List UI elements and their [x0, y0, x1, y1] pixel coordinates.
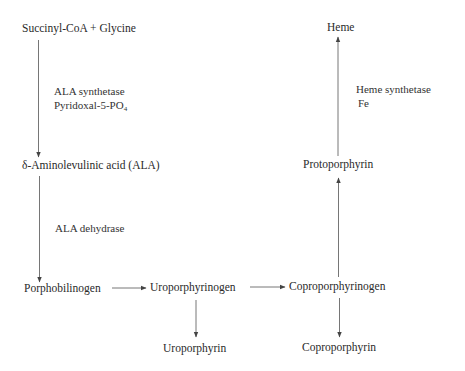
enzyme-ala-synthetase: ALA synthetase: [54, 84, 125, 98]
pathway-arrows: [0, 0, 465, 371]
cofactor-iron: Fe: [358, 96, 369, 110]
cofactor-pyridoxal-phosphate: Pyridoxal-5-PO4: [54, 98, 127, 116]
cofactor-pyridoxal-subscript: 4: [124, 105, 128, 113]
node-ala: δ-Aminolevulinic acid (ALA): [22, 159, 160, 172]
node-protoporphyrin: Protoporphyrin: [303, 158, 373, 171]
node-heme: Heme: [327, 21, 354, 34]
node-coproporphyrin: Coproporphyrin: [302, 341, 376, 354]
node-porphobilinogen: Porphobilinogen: [24, 282, 101, 295]
enzyme-ala-dehydrase: ALA dehydrase: [55, 221, 124, 235]
cofactor-pyridoxal-text: Pyridoxal-5-PO: [54, 99, 124, 111]
node-uroporphyrinogen: Uroporphyrinogen: [150, 281, 236, 294]
node-succinyl-coa-glycine: Succinyl-CoA + Glycine: [22, 22, 136, 35]
node-uroporphyrin: Uroporphyrin: [163, 342, 226, 355]
enzyme-heme-synthetase: Heme synthetase: [356, 82, 431, 96]
node-coproporphyrinogen: Coproporphyrinogen: [289, 280, 385, 293]
